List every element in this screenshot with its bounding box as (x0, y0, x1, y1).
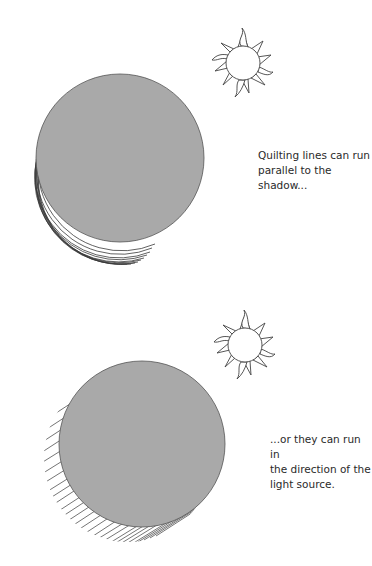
caption-parallel: Quilting lines can run parallel to the s… (258, 148, 372, 193)
gray-circle (36, 74, 204, 242)
caption-line: ...or they can run in (270, 433, 361, 460)
sun-icon (212, 28, 273, 97)
figure-light-direction-lines (30, 310, 275, 544)
caption-line: Quilting lines can run (258, 149, 370, 161)
caption-line: light source. (270, 478, 335, 490)
caption-light-direction: ...or they can run in the direction of t… (270, 432, 372, 492)
caption-line: parallel to the shadow... (258, 164, 332, 191)
caption-line: the direction of the (270, 463, 371, 475)
figure-parallel-lines (35, 28, 273, 264)
gray-circle (59, 361, 225, 527)
sun-icon (214, 310, 275, 379)
